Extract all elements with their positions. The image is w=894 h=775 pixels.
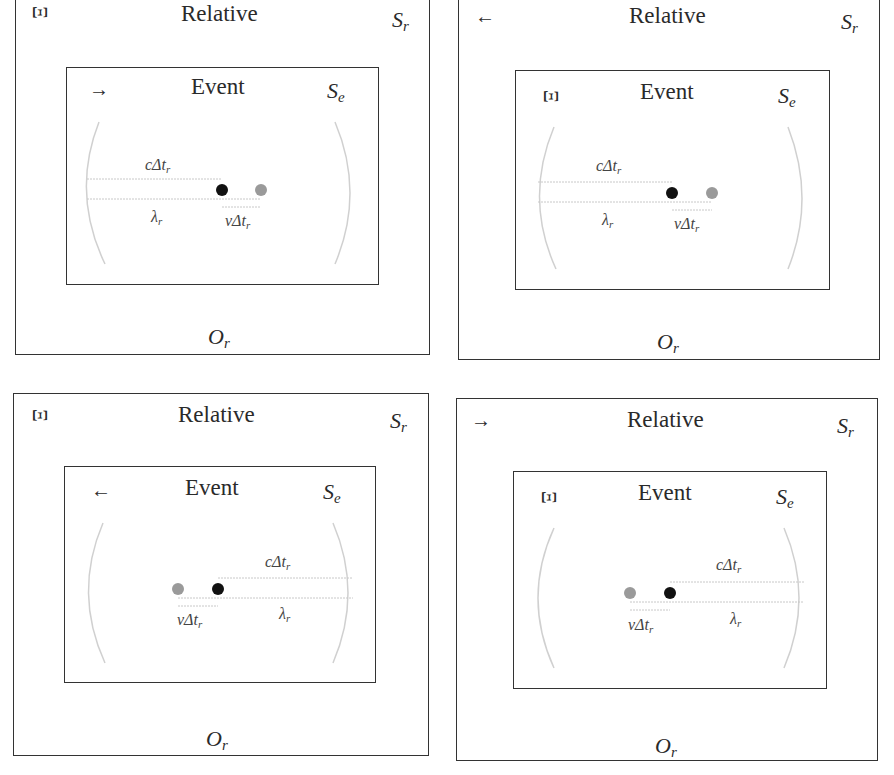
wavefront-left-arc (86, 122, 105, 264)
observer-label: Or (655, 733, 677, 761)
lambda-label: λr (602, 211, 613, 230)
arrow-left-icon: ← (475, 5, 495, 28)
source-prior-dot (255, 184, 267, 196)
wavefront-diagram (516, 71, 831, 291)
event-frame: ← Event Se cΔtr λr vΔtr (64, 466, 376, 683)
relative-frame-title: Relative (629, 3, 706, 29)
lambda-label: λr (279, 605, 290, 624)
wavefront-left-arc (88, 523, 105, 663)
wavefront-diagram (65, 467, 377, 684)
event-frame: → Event Se cΔtr λr vΔtr (66, 67, 379, 285)
wavefront-right-arc (333, 523, 348, 663)
source-current-dot (666, 187, 678, 199)
c-dt-label: cΔtr (265, 553, 290, 572)
wavefront-right-arc (335, 122, 350, 264)
source-current-dot (212, 583, 224, 595)
lambda-label: λr (730, 610, 741, 629)
c-dt-label: cΔtr (716, 556, 741, 575)
source-current-dot (216, 184, 228, 196)
panel-top-right: ← Relative Sr Or Ξ Event Se cΔtr λr vΔtr (458, 0, 880, 360)
source-prior-dot (172, 583, 184, 595)
c-dt-label: cΔtr (145, 156, 170, 175)
xi-glyph: Ξ (28, 6, 51, 19)
panel-bottom-right: → Relative Sr Or Ξ Event Se cΔtr λr vΔtr (456, 398, 878, 761)
panel-bottom-left: Ξ Relative Sr Or ← Event Se cΔtr λr vΔtr (13, 393, 429, 756)
wavefront-right-arc (788, 127, 802, 269)
arrow-right-icon: → (471, 409, 491, 432)
observer-label: Or (208, 324, 230, 352)
relative-frame-symbol: Sr (392, 7, 409, 35)
xi-glyph: Ξ (28, 409, 51, 422)
source-prior-dot (706, 187, 718, 199)
observer-label: Or (657, 329, 679, 357)
v-dt-label: vΔtr (628, 616, 653, 635)
relative-frame-title: Relative (181, 1, 258, 27)
lambda-label: λr (151, 208, 162, 227)
v-dt-label: vΔtr (177, 611, 202, 630)
v-dt-label: vΔtr (674, 215, 699, 234)
relative-frame-symbol: Sr (837, 413, 854, 441)
source-current-dot (664, 587, 676, 599)
wavefront-right-arc (784, 528, 799, 668)
wavefront-left-arc (538, 528, 554, 668)
relative-frame-symbol: Sr (841, 9, 858, 37)
panel-top-left: Ξ Relative Sr Or → Event Se cΔtr λr vΔtr (15, 0, 430, 355)
event-frame: Ξ Event Se cΔtr λr vΔtr (515, 70, 830, 290)
v-dt-label: vΔtr (225, 212, 250, 231)
wavefront-diagram (67, 68, 380, 286)
relative-frame-symbol: Sr (390, 408, 407, 436)
wavefront-left-arc (539, 127, 556, 269)
relative-frame-title: Relative (627, 407, 704, 433)
event-frame: Ξ Event Se cΔtr λr vΔtr (513, 471, 827, 689)
observer-label: Or (206, 726, 228, 754)
c-dt-label: cΔtr (596, 157, 621, 176)
wavefront-diagram (514, 472, 828, 690)
relative-frame-title: Relative (178, 402, 255, 428)
source-prior-dot (624, 587, 636, 599)
